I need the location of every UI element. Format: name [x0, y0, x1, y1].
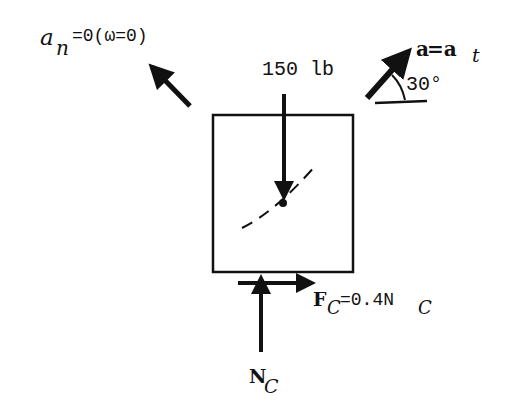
friction-label: F	[313, 288, 327, 310]
mass-center-dot	[279, 199, 287, 207]
friction-subscript: C	[327, 297, 341, 318]
a-subscript: t	[472, 44, 480, 66]
an-label: a	[40, 24, 54, 50]
an-value: =0(ω=0)	[72, 26, 148, 46]
friction-subscript-2: C	[418, 297, 432, 318]
normal-accel-arrow-icon	[152, 67, 190, 106]
a-equals: =a	[427, 37, 457, 61]
angle-arc-icon	[392, 75, 405, 100]
reference-horizontal-line	[375, 101, 427, 103]
path-curve	[242, 165, 316, 228]
weight-label: 150 lb	[262, 58, 334, 81]
angle-label: 30°	[406, 73, 442, 96]
friction-equation: =0.4N	[340, 290, 394, 310]
free-body-diagram: a n =0(ω=0) 150 lb a =a t 30° F C =0.4N …	[0, 0, 510, 416]
an-subscript: n	[56, 36, 69, 60]
normal-force-subscript: C	[264, 375, 279, 397]
